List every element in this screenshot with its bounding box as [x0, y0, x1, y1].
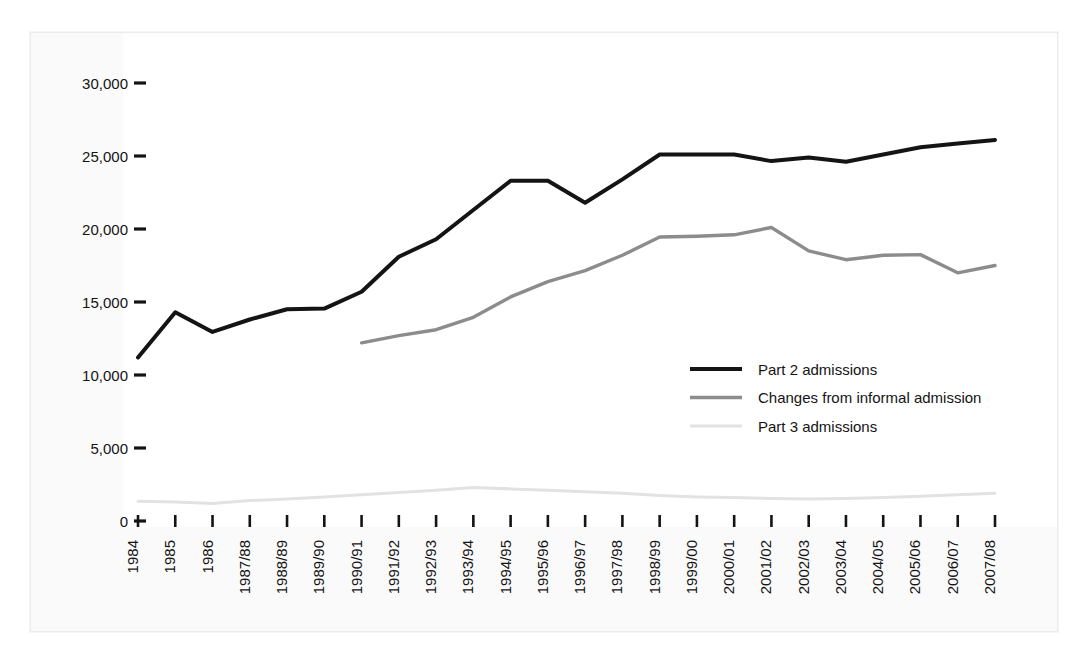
x-tick-label: 1990/91 [348, 540, 365, 594]
legend-label: Part 3 admissions [758, 418, 877, 435]
x-axis-ticks [138, 515, 995, 527]
x-tick-label: 2006/07 [944, 540, 961, 594]
y-tick-label: 15,000 [82, 294, 128, 311]
x-tick-label: 1985 [161, 540, 178, 573]
series-line [138, 140, 995, 358]
y-axis-labels: 05,00010,00015,00020,00025,00030,000 [82, 75, 128, 530]
x-tick-label: 1999/00 [683, 540, 700, 594]
legend-label: Part 2 admissions [758, 361, 877, 378]
series-line [138, 487, 995, 503]
x-tick-label: 2003/04 [832, 540, 849, 594]
y-axis-ticks [134, 83, 146, 521]
series-line [362, 228, 995, 343]
x-tick-label: 1998/99 [646, 540, 663, 594]
x-tick-label: 1992/93 [422, 540, 439, 594]
y-tick-label: 25,000 [82, 148, 128, 165]
y-tick-label: 20,000 [82, 221, 128, 238]
x-tick-label: 1996/97 [571, 540, 588, 594]
x-tick-label: 1987/88 [236, 540, 253, 594]
x-tick-label: 2001/02 [757, 540, 774, 594]
y-tick-label: 30,000 [82, 75, 128, 92]
x-tick-label: 2000/01 [720, 540, 737, 594]
x-tick-label: 1988/89 [273, 540, 290, 594]
chart-legend: Part 2 admissionsChanges from informal a… [690, 361, 981, 435]
x-tick-label: 2002/03 [795, 540, 812, 594]
x-tick-label: 1989/90 [310, 540, 327, 594]
x-tick-label: 1991/92 [385, 540, 402, 594]
x-tick-label: 1993/94 [459, 540, 476, 594]
x-tick-label: 2004/05 [869, 540, 886, 594]
x-tick-label: 1986 [199, 540, 216, 573]
x-tick-label: 2007/08 [981, 540, 998, 594]
y-tick-label: 5,000 [90, 440, 128, 457]
y-tick-label: 0 [120, 513, 128, 530]
x-tick-label: 1997/98 [608, 540, 625, 594]
chart-figure: 05,00010,00015,00020,00025,00030,000 198… [0, 0, 1088, 669]
y-tick-label: 10,000 [82, 367, 128, 384]
x-tick-label: 1995/96 [534, 540, 551, 594]
x-tick-label: 1994/95 [497, 540, 514, 594]
data-series-group [138, 140, 995, 504]
x-axis-labels: 1984198519861987/881988/891989/901990/91… [124, 540, 998, 594]
legend-label: Changes from informal admission [758, 389, 981, 406]
x-tick-label: 1984 [124, 540, 141, 573]
x-tick-label: 2005/06 [906, 540, 923, 594]
line-chart-plot: 05,00010,00015,00020,00025,00030,000 198… [0, 0, 1088, 669]
